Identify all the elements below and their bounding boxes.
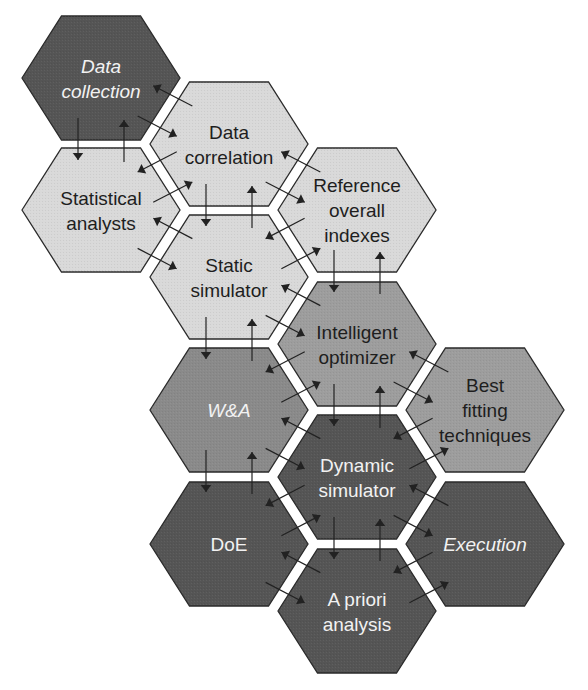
- hexagon-label: A priori: [327, 589, 386, 610]
- hexagon-texture: [278, 415, 436, 539]
- hexagon-label: W&A: [207, 400, 250, 421]
- hexagon-label: analysts: [66, 213, 136, 234]
- hexagon-execution: Execution: [406, 482, 564, 606]
- hexagon-texture: [150, 82, 308, 206]
- hexagon-label: Reference: [313, 175, 401, 196]
- hexagon-label: correlation: [185, 147, 274, 168]
- hexagon-label: simulator: [318, 480, 396, 501]
- hexagon-w-and-a: W&A: [150, 348, 308, 472]
- hexagon-texture: [278, 282, 436, 406]
- hexagon-a-priori-analysis: A priorianalysis: [278, 549, 436, 673]
- hexagon-label: analysis: [323, 614, 392, 635]
- hexagon-label: collection: [61, 81, 140, 102]
- hexagon-data-collection: Datacollection: [22, 16, 180, 140]
- hexagon-texture: [278, 549, 436, 673]
- hexagon-label: Execution: [443, 534, 526, 555]
- hexagon-layer: DatacollectionDatacorrelationStatistical…: [22, 16, 564, 673]
- hexagon-label: Data: [209, 122, 250, 143]
- hexagon-label: techniques: [439, 425, 531, 446]
- hexagon-label: fitting: [462, 400, 507, 421]
- hexagon-doe: DoE: [150, 482, 308, 606]
- hexagon-intelligent-optimizer: Intelligentoptimizer: [278, 282, 436, 406]
- hexagon-label: overall: [329, 200, 385, 221]
- hexagon-texture: [22, 148, 180, 272]
- hexagon-label: indexes: [324, 225, 390, 246]
- hexagon-static-simulator: Staticsimulator: [150, 215, 308, 339]
- hexagon-best-fitting-techniques: Bestfittingtechniques: [406, 348, 564, 472]
- hexagon-label: Dynamic: [320, 455, 394, 476]
- hexagon-label: Data: [81, 56, 121, 77]
- hexagon-reference-overall-indexes: Referenceoverallindexes: [278, 148, 436, 272]
- hexagon-statistical-analysts: Statisticalanalysts: [22, 148, 180, 272]
- hexagon-diagram: DatacollectionDatacorrelationStatistical…: [0, 0, 588, 690]
- hexagon-label: Intelligent: [316, 322, 398, 343]
- hexagon-label: Statistical: [60, 188, 141, 209]
- hexagon-label: Best: [466, 375, 505, 396]
- hexagon-texture: [150, 215, 308, 339]
- hexagon-texture: [22, 16, 180, 140]
- hexagon-label: optimizer: [318, 347, 396, 368]
- hexagon-label: Static: [205, 255, 253, 276]
- hexagon-label: simulator: [190, 280, 268, 301]
- hexagon-dynamic-simulator: Dynamicsimulator: [278, 415, 436, 539]
- hexagon-label: DoE: [211, 534, 248, 555]
- hexagon-data-correlation: Datacorrelation: [150, 82, 308, 206]
